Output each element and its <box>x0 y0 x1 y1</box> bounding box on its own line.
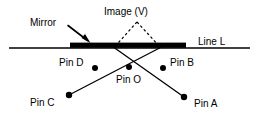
mirror-pointer-arrow <box>68 26 91 44</box>
pin-b-label: Pin B <box>170 57 194 68</box>
sight-line-ab <box>114 48 184 98</box>
pin-o-dot <box>126 64 132 70</box>
mirror-label: Mirror <box>30 17 56 28</box>
ray-diagram: Mirror Image (V) Line L Pin D Pin B Pin … <box>0 0 255 118</box>
pin-a-dot <box>181 94 187 100</box>
pin-c-label: Pin C <box>30 97 54 108</box>
line-l-label: Line L <box>198 36 225 47</box>
pin-o-label: Pin O <box>116 74 141 85</box>
image-label: Image (V) <box>104 6 148 17</box>
pin-c-dot <box>66 92 72 98</box>
pin-a-label: Pin A <box>194 98 217 109</box>
mirror-bar <box>70 43 186 48</box>
pin-d-dot <box>92 65 98 71</box>
pin-d-label: Pin D <box>59 57 83 68</box>
pin-b-dot <box>160 65 166 71</box>
